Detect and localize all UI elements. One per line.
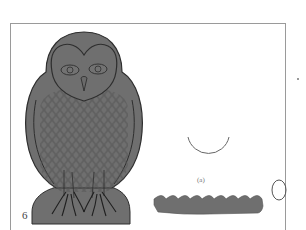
owl-eye-left — [61, 65, 79, 75]
owl-eye-right — [89, 64, 107, 74]
arc-shape — [188, 137, 229, 153]
owl-feather-pattern — [36, 86, 132, 196]
edge-mark — [297, 78, 299, 80]
scalloped-band — [154, 196, 263, 215]
figure-number-label: 6 — [22, 209, 28, 221]
owl-figure — [26, 32, 143, 224]
egg-shape — [272, 180, 286, 200]
figure-canvas — [0, 0, 306, 230]
caption-label: (a) — [197, 176, 205, 184]
